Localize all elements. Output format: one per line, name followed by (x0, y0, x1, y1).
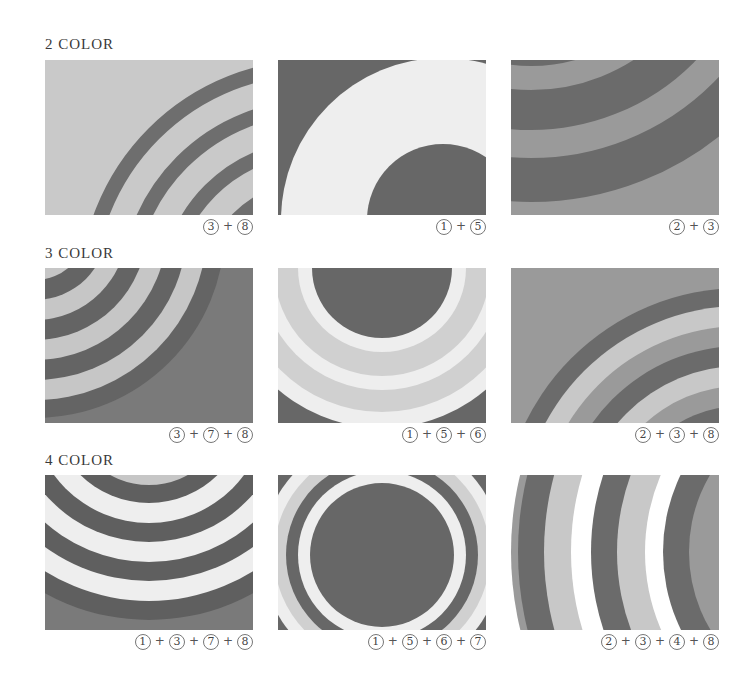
panel-caption-1-5: 1+5 (278, 219, 486, 235)
color-number-8: 8 (237, 219, 253, 235)
color-number-1: 1 (135, 634, 151, 650)
color-number-8: 8 (237, 427, 253, 443)
color-number-1: 1 (368, 634, 384, 650)
section-label-4-color: 4 COLOR (45, 452, 114, 469)
color-number-1: 1 (436, 219, 452, 235)
panel-caption-1-5-6: 1+5+6 (278, 427, 486, 443)
color-number-3: 3 (169, 427, 185, 443)
section-label-2-color: 2 COLOR (45, 36, 114, 53)
concentric-arcs-graphic (45, 60, 253, 215)
color-number-6: 6 (436, 634, 452, 650)
concentric-arcs-graphic (511, 60, 719, 215)
color-number-2: 2 (601, 634, 617, 650)
panel-caption-2-3-4-8: 2+3+4+8 (511, 634, 719, 650)
color-number-5: 5 (436, 427, 452, 443)
color-number-7: 7 (203, 634, 219, 650)
color-number-1: 1 (402, 427, 418, 443)
concentric-arcs-graphic (278, 60, 486, 215)
concentric-arcs-graphic (45, 475, 253, 630)
concentric-arcs-graphic (511, 268, 719, 423)
panel-caption-1-3-7-8: 1+3+7+8 (45, 634, 253, 650)
panel-caption-3-8: 3+8 (45, 219, 253, 235)
panel-caption-2-3-8: 2+3+8 (511, 427, 719, 443)
color-number-8: 8 (237, 634, 253, 650)
concentric-arcs-graphic (511, 475, 719, 630)
concentric-arcs-graphic (278, 475, 486, 630)
swatch-panel-3-7-8 (45, 268, 253, 423)
swatch-panel-1-5-6-7 (278, 475, 486, 630)
swatch-panel-2-3-8 (511, 268, 719, 423)
color-number-8: 8 (703, 427, 719, 443)
color-number-3: 3 (669, 427, 685, 443)
swatch-panel-3-8 (45, 60, 253, 215)
color-number-3: 3 (635, 634, 651, 650)
panel-caption-2-3: 2+3 (511, 219, 719, 235)
color-number-3: 3 (703, 219, 719, 235)
color-number-2: 2 (669, 219, 685, 235)
section-label-3-color: 3 COLOR (45, 245, 114, 262)
color-number-6: 6 (470, 427, 486, 443)
panel-caption-3-7-8: 3+7+8 (45, 427, 253, 443)
color-number-3: 3 (203, 219, 219, 235)
concentric-arcs-graphic (278, 268, 486, 423)
color-number-4: 4 (669, 634, 685, 650)
swatch-panel-1-5 (278, 60, 486, 215)
swatch-panel-1-5-6 (278, 268, 486, 423)
color-number-7: 7 (203, 427, 219, 443)
color-number-7: 7 (470, 634, 486, 650)
swatch-panel-2-3-4-8 (511, 475, 719, 630)
color-number-3: 3 (169, 634, 185, 650)
color-number-2: 2 (635, 427, 651, 443)
concentric-arcs-graphic (45, 268, 253, 423)
swatch-panel-2-3 (511, 60, 719, 215)
color-number-8: 8 (703, 634, 719, 650)
color-number-5: 5 (402, 634, 418, 650)
panel-caption-1-5-6-7: 1+5+6+7 (278, 634, 486, 650)
swatch-panel-1-3-7-8 (45, 475, 253, 630)
color-number-5: 5 (470, 219, 486, 235)
